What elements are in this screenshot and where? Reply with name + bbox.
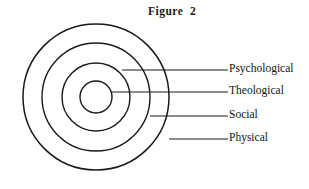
label-theological: Theological bbox=[229, 85, 284, 97]
ring-physical-circle bbox=[23, 24, 169, 170]
ring-psychological-circle bbox=[42, 43, 150, 151]
ring-theological-circle bbox=[80, 81, 112, 113]
figure-container: Figure 2 Psychological Theological Socia… bbox=[0, 0, 309, 189]
ring-social-circle bbox=[62, 63, 130, 131]
circle-group bbox=[23, 24, 169, 170]
label-physical: Physical bbox=[229, 132, 268, 144]
label-social: Social bbox=[229, 109, 258, 121]
label-psychological: Psychological bbox=[229, 63, 294, 75]
